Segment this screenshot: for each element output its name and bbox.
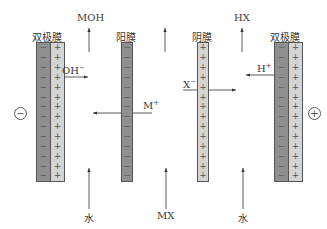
- cathode-icon: −: [14, 107, 27, 120]
- ion-hydroxide-label: OH−: [62, 64, 85, 76]
- bipolar-left-positive-layer: ++++++++++++++: [50, 42, 65, 182]
- input-water-right-label: 水: [238, 210, 248, 225]
- negative-charges: −−−−−−−−−−−−−−: [275, 43, 288, 181]
- product-acid-label: HX: [234, 12, 250, 23]
- bipolar-left-negative-layer: −−−−−−−−−−−−−−: [36, 42, 51, 182]
- ion-cation-label: M+: [143, 99, 159, 111]
- anion-membrane: ++++++++++++++: [197, 42, 209, 182]
- input-salt-label: MX: [157, 210, 174, 221]
- anode-icon: +: [308, 107, 321, 120]
- product-base-label: MOH: [77, 12, 104, 23]
- bipolar-right-negative-layer: −−−−−−−−−−−−−−: [274, 42, 289, 182]
- positive-charges: ++++++++++++++: [198, 43, 208, 181]
- ion-anion-label: X−: [183, 78, 196, 90]
- bipolar-right-positive-layer: ++++++++++++++: [288, 42, 303, 182]
- negative-charges: −−−−−−−−−−−−−−: [122, 43, 132, 181]
- ion-proton-label: H+: [257, 62, 272, 74]
- cation-membrane: −−−−−−−−−−−−−−: [121, 42, 133, 182]
- negative-charges: −−−−−−−−−−−−−−: [37, 43, 50, 181]
- input-water-left-label: 水: [84, 210, 94, 225]
- positive-charges: ++++++++++++++: [289, 43, 302, 181]
